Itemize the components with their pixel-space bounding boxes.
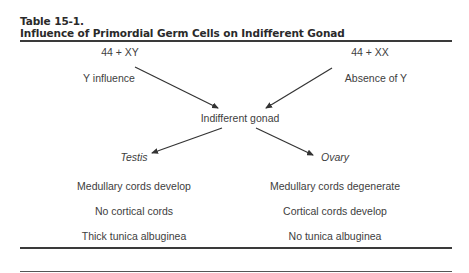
ovary-label: Ovary xyxy=(321,151,349,163)
arrow-absence-y-to-gonad xyxy=(266,68,332,108)
right-influence: Absence of Y xyxy=(345,72,407,84)
bottom-rule-thick xyxy=(20,247,452,249)
top-rule xyxy=(20,40,452,42)
arrow-gonad-to-testis xyxy=(152,128,222,153)
indifferent-gonad-node: Indifferent gonad xyxy=(201,112,280,124)
bottom-rule-thin xyxy=(20,271,452,272)
left-karyotype: 44 + XY xyxy=(101,46,139,58)
left-feature-3: Thick tunica albuginea xyxy=(82,230,186,242)
left-feature-2: No cortical cords xyxy=(95,205,173,217)
right-feature-3: No tunica albuginea xyxy=(289,230,382,242)
table-title: Influence of Primordial Germ Cells on In… xyxy=(20,27,345,39)
left-feature-1: Medullary cords develop xyxy=(77,180,191,192)
table-label: Table 15-1. xyxy=(20,15,84,27)
left-influence: Y influence xyxy=(83,72,135,84)
arrow-gonad-to-ovary xyxy=(256,128,313,155)
right-feature-1: Medullary cords degenerate xyxy=(270,180,400,192)
testis-label: Testis xyxy=(120,151,147,163)
arrow-y-influence-to-gonad xyxy=(135,67,218,108)
right-karyotype: 44 + XX xyxy=(351,46,389,58)
right-feature-2: Cortical cords develop xyxy=(283,205,387,217)
